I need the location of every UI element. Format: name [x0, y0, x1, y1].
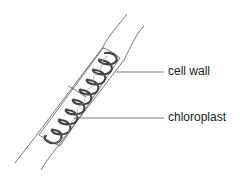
spirogyra-diagram — [0, 0, 246, 178]
chloroplast-label: chloroplast — [168, 110, 226, 124]
spiral-highlight — [52, 56, 108, 143]
filament-left-wall — [15, 14, 127, 163]
cell-wall-label: cell wall — [168, 64, 210, 78]
spiral-chloroplast — [44, 53, 116, 143]
